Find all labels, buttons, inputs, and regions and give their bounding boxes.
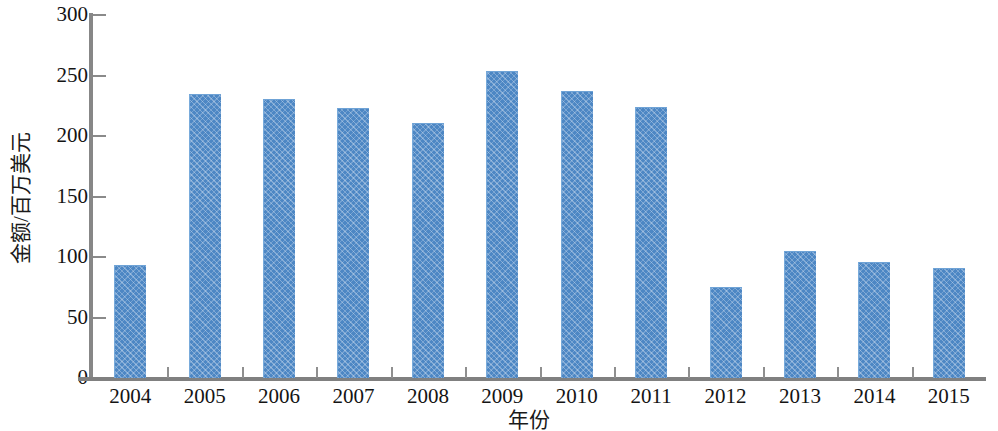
x-tick-label: 2006 bbox=[239, 386, 319, 407]
bar-chart: 金额/百万美元 050100150200250300 2004200520062… bbox=[0, 0, 998, 431]
x-tick-label: 2014 bbox=[834, 386, 914, 407]
x-tick-label: 2013 bbox=[760, 386, 840, 407]
x-tick-label: 2005 bbox=[165, 386, 245, 407]
x-tick-label: 2007 bbox=[313, 386, 393, 407]
x-tick-label: 2015 bbox=[909, 386, 989, 407]
x-tick-label: 2008 bbox=[388, 386, 468, 407]
x-axis-title: 年份 bbox=[508, 403, 550, 431]
x-tick-label: 2004 bbox=[90, 386, 170, 407]
x-axis-tick-labels: 2004200520062007200820092010201120122013… bbox=[0, 0, 998, 431]
x-tick-label: 2012 bbox=[686, 386, 766, 407]
x-tick-label: 2011 bbox=[611, 386, 691, 407]
